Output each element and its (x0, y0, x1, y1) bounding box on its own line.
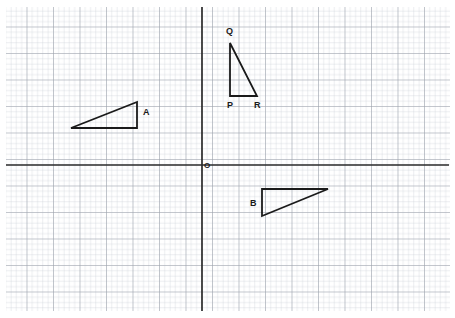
figure-svg: A Q P R B O (0, 0, 455, 318)
vertex-label-r: R (254, 100, 261, 110)
vertex-label-p: P (227, 100, 233, 110)
grid-layer (6, 7, 450, 311)
triangle-b-label: B (250, 198, 257, 208)
vertex-label-q: Q (226, 26, 233, 36)
grid-rect (6, 7, 450, 311)
triangle-a-label: A (143, 107, 150, 117)
origin-label: O (204, 161, 210, 170)
graph-figure-canvas: A Q P R B O (0, 0, 455, 318)
